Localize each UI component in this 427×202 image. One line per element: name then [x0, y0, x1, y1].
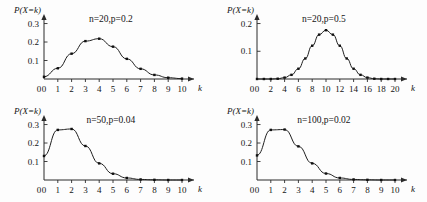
- x-tick-label: 8: [310, 84, 315, 94]
- data-point-marker: [366, 76, 368, 78]
- origin-label: 0: [250, 84, 255, 94]
- x-tick-label: 1: [269, 185, 274, 195]
- plot-area: 0123456789100.10.20.30kP(X=k)n=20,p=0.2: [0, 0, 213, 101]
- data-point-marker: [84, 145, 86, 147]
- data-point-marker: [139, 68, 141, 70]
- data-point-marker: [57, 129, 59, 131]
- data-point-marker: [98, 38, 100, 40]
- x-axis-arrow-icon: [188, 177, 194, 182]
- x-axis-title: k: [411, 83, 416, 93]
- distribution-curve: [257, 30, 395, 79]
- x-tick-label: 9: [166, 185, 171, 195]
- data-point-marker: [181, 77, 183, 79]
- x-axis-title: k: [198, 184, 203, 194]
- panel-title: n=100,p=0.02: [297, 115, 351, 125]
- data-point-marker: [153, 179, 155, 181]
- x-axis-arrow-icon: [401, 177, 407, 182]
- data-point-marker: [256, 154, 258, 156]
- x-tick-label: 10: [391, 185, 401, 195]
- y-tick-label: 0.1: [28, 157, 39, 167]
- data-point-marker: [318, 33, 320, 35]
- data-point-marker: [70, 128, 72, 130]
- x-tick-label: 5: [324, 185, 329, 195]
- x-tick-label: 0: [42, 84, 47, 94]
- data-point-marker: [57, 67, 59, 69]
- data-point-marker: [380, 179, 382, 181]
- x-tick-label: 12: [335, 84, 344, 94]
- origin-label: 0: [37, 185, 42, 195]
- data-point-marker: [283, 76, 285, 78]
- x-tick-label: 8: [152, 84, 157, 94]
- data-point-marker: [311, 162, 313, 164]
- data-point-marker: [43, 76, 45, 78]
- data-point-marker: [297, 68, 299, 70]
- y-tick-label: 0.2: [28, 37, 39, 47]
- chart-panel-n20-p02: 0123456789100.10.20.30kP(X=k)n=20,p=0.2: [0, 0, 213, 101]
- data-point-marker: [283, 128, 285, 130]
- data-point-marker: [339, 177, 341, 179]
- x-tick-label: 2: [69, 185, 74, 195]
- x-tick-label: 16: [363, 84, 373, 94]
- x-tick-label: 7: [138, 185, 143, 195]
- x-tick-label: 4: [97, 84, 102, 94]
- y-axis-title: P(X=k): [226, 5, 254, 15]
- data-point-marker: [290, 74, 292, 76]
- plot-area: 024681012141618200.10.20kP(X=k)n=20,p=0.…: [213, 0, 426, 101]
- y-axis-title: P(X=k): [13, 106, 41, 116]
- plot-area: 0123456789100.10.20.30kP(X=k)n=50,p=0.04: [0, 101, 213, 202]
- data-point-marker: [373, 78, 375, 80]
- x-tick-label: 18: [377, 84, 387, 94]
- x-tick-label: 7: [351, 185, 356, 195]
- binomial-distribution-figure: 0123456789100.10.20.30kP(X=k)n=20,p=0.2 …: [0, 0, 427, 202]
- distribution-curve: [44, 39, 182, 79]
- x-tick-label: 0: [42, 185, 47, 195]
- x-tick-label: 10: [178, 185, 188, 195]
- x-tick-label: 3: [83, 84, 88, 94]
- data-point-marker: [270, 78, 272, 80]
- data-point-marker: [277, 78, 279, 80]
- data-point-marker: [352, 68, 354, 70]
- x-tick-label: 4: [282, 84, 287, 94]
- x-tick-label: 6: [125, 185, 130, 195]
- x-tick-label: 10: [322, 84, 332, 94]
- data-point-marker: [256, 78, 258, 80]
- data-point-marker: [387, 78, 389, 80]
- x-axis-arrow-icon: [188, 76, 194, 81]
- data-point-marker: [380, 78, 382, 80]
- x-tick-label: 20: [391, 84, 401, 94]
- data-point-marker: [84, 40, 86, 42]
- x-tick-label: 2: [69, 84, 74, 94]
- y-tick-label: 0.2: [241, 19, 252, 29]
- panel-title: n=20,p=0.5: [302, 14, 346, 24]
- data-point-marker: [153, 74, 155, 76]
- x-tick-label: 1: [56, 84, 61, 94]
- x-tick-label: 9: [379, 185, 384, 195]
- y-tick-label: 0.3: [28, 19, 40, 29]
- origin-label: 0: [250, 185, 255, 195]
- x-tick-label: 4: [97, 185, 102, 195]
- y-axis-arrow-icon: [254, 115, 259, 121]
- x-tick-label: 9: [166, 84, 171, 94]
- data-point-marker: [263, 78, 265, 80]
- data-point-marker: [359, 74, 361, 76]
- data-point-marker: [339, 45, 341, 47]
- chart-panel-n20-p05: 024681012141618200.10.20kP(X=k)n=20,p=0.…: [213, 0, 426, 101]
- data-point-marker: [325, 29, 327, 31]
- data-point-marker: [98, 162, 100, 164]
- y-axis-title: P(X=k): [13, 5, 41, 15]
- x-tick-label: 14: [349, 84, 359, 94]
- x-tick-label: 6: [296, 84, 301, 94]
- chart-panel-n100-p002: 0123456789100.10.20.30kP(X=k)n=100,p=0.0…: [213, 101, 426, 202]
- data-point-marker: [304, 57, 306, 59]
- data-point-marker: [270, 129, 272, 131]
- y-tick-label: 0.1: [28, 56, 39, 66]
- distribution-curve: [44, 129, 182, 180]
- x-tick-label: 2: [269, 84, 274, 94]
- data-point-marker: [346, 57, 348, 59]
- x-axis-title: k: [411, 184, 416, 194]
- panel-title: n=50,p=0.04: [87, 115, 136, 125]
- data-point-marker: [181, 179, 183, 181]
- data-point-marker: [126, 177, 128, 179]
- x-tick-label: 5: [111, 185, 116, 195]
- x-axis-arrow-icon: [401, 76, 407, 81]
